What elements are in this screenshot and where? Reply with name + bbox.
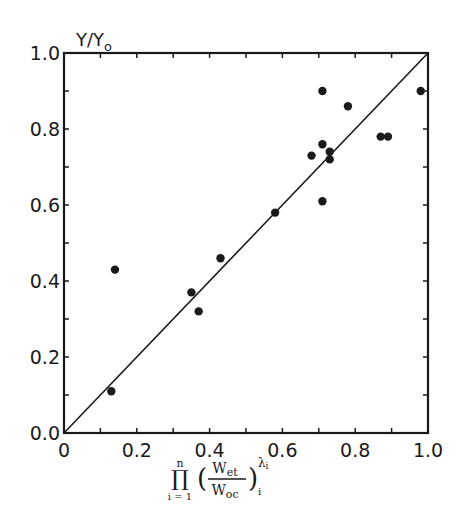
y-tick-label: 1.0 (30, 42, 60, 64)
y-tick-label: 0.6 (30, 194, 60, 216)
x-tick-label: 0.2 (122, 439, 152, 461)
x-tick-label: 0.6 (267, 439, 297, 461)
identity-reference-line (64, 53, 428, 433)
svg-text:): ) (248, 463, 258, 493)
data-point (318, 140, 326, 148)
data-point (344, 102, 352, 110)
x-tick-label: 0.8 (340, 439, 370, 461)
data-point (307, 151, 315, 159)
data-point (417, 87, 425, 95)
svg-text:i = 1: i = 1 (168, 491, 192, 502)
y-tick-label: 0.0 (30, 422, 60, 444)
data-point (216, 254, 224, 262)
axis-tick-labels: 00.20.40.60.81.00.00.20.40.60.81.0 (30, 42, 443, 461)
svg-text:Woc: Woc (211, 482, 238, 501)
y-axis-label: Y/Yo (75, 29, 112, 54)
data-point (384, 132, 392, 140)
svg-text:Wet: Wet (212, 460, 238, 479)
y-tick-label: 0.8 (30, 118, 60, 140)
data-point (318, 197, 326, 205)
data-point (318, 87, 326, 95)
y-tick-label: 0.4 (30, 270, 60, 292)
x-tick-label: 0.4 (194, 439, 224, 461)
svg-text:∏: ∏ (171, 466, 189, 491)
scatter-chart: 00.20.40.60.81.00.00.20.40.60.81.0 Y/Yo … (0, 0, 468, 523)
y-tick-label: 0.2 (30, 346, 60, 368)
svg-text:(: ( (197, 463, 207, 493)
data-point (326, 148, 334, 156)
svg-text:i: i (258, 486, 261, 497)
x-axis-label: n ∏ i = 1 ( Wet Woc ) λi i (168, 456, 269, 502)
data-point (326, 155, 334, 163)
data-point (111, 265, 119, 273)
x-tick-label: 1.0 (413, 439, 443, 461)
data-point (187, 288, 195, 296)
data-points (107, 87, 425, 396)
data-point (194, 307, 202, 315)
data-point (271, 208, 279, 216)
data-point (107, 387, 115, 395)
data-point (376, 132, 384, 140)
